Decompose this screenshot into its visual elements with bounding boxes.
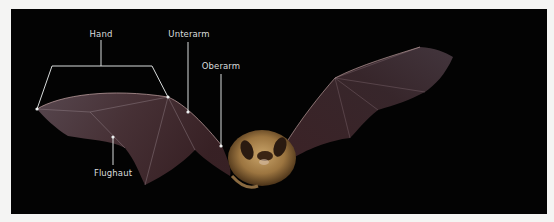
label-flughaut: Flughaut (94, 168, 132, 178)
label-hand: Hand (90, 29, 113, 39)
bat-diagram-panel: Hand Unterarm Oberarm Flughaut (11, 9, 547, 214)
left-wing (37, 93, 231, 185)
right-wing (283, 47, 453, 160)
bat-illustration (11, 9, 547, 214)
bat-body (228, 130, 296, 187)
label-unterarm: Unterarm (168, 29, 209, 39)
label-oberarm: Oberarm (202, 61, 240, 71)
